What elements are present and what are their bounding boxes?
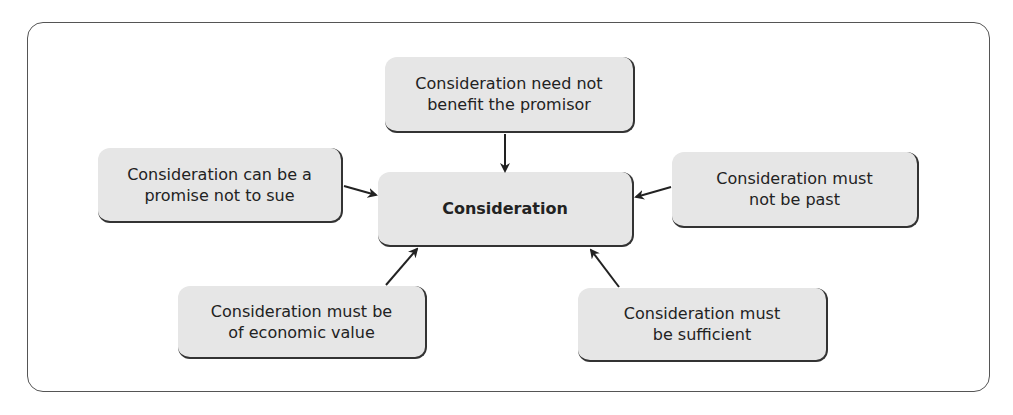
arrow-right-to-center	[636, 187, 671, 197]
arrow-bottom-left-to-center	[386, 249, 417, 285]
arrow-bottom-right-to-center	[591, 250, 619, 287]
arrows-layer	[0, 0, 1013, 415]
arrow-left-to-center	[344, 186, 376, 195]
